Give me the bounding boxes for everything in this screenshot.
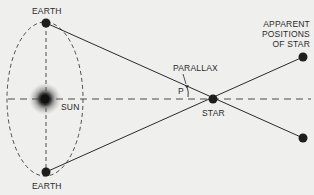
- parallax-label-leader: [183, 74, 186, 84]
- apparent-label-line-3: OF STAR: [262, 39, 310, 49]
- star-icon: [209, 95, 218, 104]
- earth-top-icon: [42, 19, 51, 28]
- apparent-position-bottom-icon: [299, 134, 308, 143]
- apparent-positions-label: APPARENT POSITIONS OF STAR: [262, 19, 310, 49]
- earth-bottom-label: EARTH: [32, 181, 62, 191]
- apparent-label-line-1: APPARENT: [262, 19, 310, 29]
- apparent-position-top-icon: [299, 53, 308, 62]
- earth-bottom-icon: [42, 168, 51, 177]
- earth-top-label: EARTH: [32, 6, 62, 16]
- parallax-angle-label: P: [178, 86, 184, 96]
- apparent-label-line-2: POSITIONS: [262, 29, 310, 39]
- parallax-angle-arc: [187, 87, 188, 97]
- star-label: STAR: [202, 108, 225, 118]
- sun-icon: [41, 95, 50, 104]
- sight-line-bottom: [46, 57, 303, 172]
- sun-label: SUN: [61, 102, 80, 112]
- parallax-label: PARALLAX: [173, 63, 218, 73]
